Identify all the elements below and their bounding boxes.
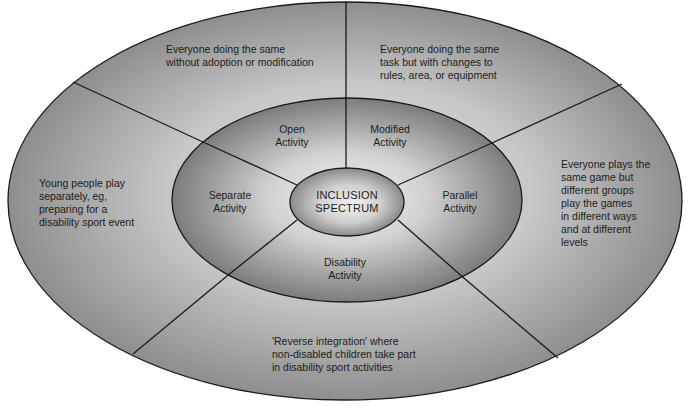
open-label-line2: Activity xyxy=(252,136,332,149)
parallel-label-line2: Activity xyxy=(425,202,495,215)
segment-separate-label: Separate Activity xyxy=(195,189,265,215)
modified-desc-line1: Everyone doing the same xyxy=(380,43,550,56)
parallel-desc-line5: in different ways xyxy=(561,210,671,223)
open-desc-line1: Everyone doing the same xyxy=(166,43,346,56)
core-label-line2: SPECTRUM xyxy=(297,202,397,215)
separate-desc-line1: Young people play xyxy=(39,177,169,190)
separate-desc-line2: separately, eg, xyxy=(39,190,169,203)
segment-modified-description: Everyone doing the same task but with ch… xyxy=(380,43,550,82)
disability-desc-line3: in disability sport activities xyxy=(272,361,472,374)
parallel-desc-line6: and at different xyxy=(561,223,671,236)
disability-label-line2: Activity xyxy=(305,269,385,282)
parallel-desc-line2: same game but xyxy=(561,171,671,184)
modified-label-line1: Modified xyxy=(350,123,430,136)
segment-open-description: Everyone doing the same without adoption… xyxy=(166,43,346,69)
modified-desc-line2: task but with changes to xyxy=(380,56,550,69)
open-label-line1: Open xyxy=(252,123,332,136)
disability-desc-line2: non-disabled children take part xyxy=(272,348,472,361)
separate-label-line1: Separate xyxy=(195,189,265,202)
separate-label-line2: Activity xyxy=(195,202,265,215)
segment-parallel-label: Parallel Activity xyxy=(425,189,495,215)
parallel-desc-line3: different groups xyxy=(561,184,671,197)
parallel-desc-line7: levels xyxy=(561,236,671,249)
separate-desc-line4: disability sport event xyxy=(39,216,169,229)
core-label-line1: INCLUSION xyxy=(297,189,397,202)
separate-desc-line3: preparing for a xyxy=(39,203,169,216)
parallel-desc-line4: play the games xyxy=(561,197,671,210)
segment-separate-description: Young people play separately, eg, prepar… xyxy=(39,177,169,229)
parallel-label-line1: Parallel xyxy=(425,189,495,202)
modified-desc-line3: rules, area, or equipment xyxy=(380,69,550,82)
segment-modified-label: Modified Activity xyxy=(350,123,430,149)
modified-label-line2: Activity xyxy=(350,136,430,149)
disability-label-line1: Disability xyxy=(305,256,385,269)
core-label: INCLUSION SPECTRUM xyxy=(297,189,397,215)
segment-disability-label: Disability Activity xyxy=(305,256,385,282)
open-desc-line2: without adoption or modification xyxy=(166,56,346,69)
segment-disability-description: 'Reverse integration' where non-disabled… xyxy=(272,335,472,374)
disability-desc-line1: 'Reverse integration' where xyxy=(272,335,472,348)
parallel-desc-line1: Everyone plays the xyxy=(561,158,671,171)
segment-open-label: Open Activity xyxy=(252,123,332,149)
segment-parallel-description: Everyone plays the same game but differe… xyxy=(561,158,671,249)
